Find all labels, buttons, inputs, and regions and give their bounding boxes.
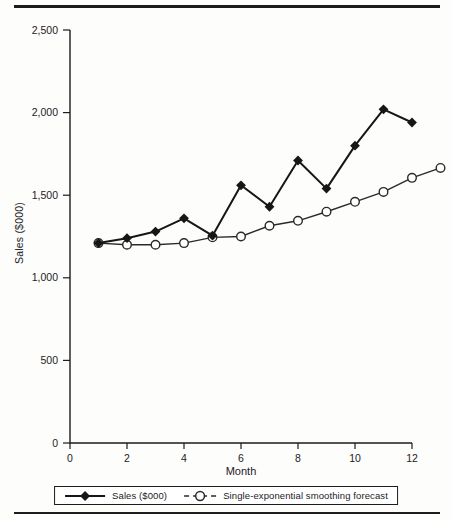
x-axis-title-text: Month: [226, 465, 257, 477]
legend-item-sales: Sales ($000): [64, 490, 167, 502]
y-axis-title: Sales ($000): [13, 202, 25, 264]
x-tick-label: 10: [349, 452, 361, 464]
plot-area: 05001,0001,5002,0002,500024681012Month: [0, 0, 452, 480]
x-tick-label: 6: [238, 452, 244, 464]
forecast-point-marker: [294, 217, 303, 226]
x-tick-label: 8: [295, 452, 301, 464]
sales-point-marker: [407, 118, 417, 128]
legend-marker-forecast-dash-circle-icon: [183, 490, 217, 502]
y-tick-label: 500: [40, 354, 58, 366]
bottom-rule: [14, 512, 440, 514]
forecast-point-marker: [265, 221, 274, 230]
legend-label-sales: Sales ($000): [112, 490, 167, 501]
forecast-point-marker: [322, 207, 331, 216]
y-tick-label: 1,500: [32, 189, 58, 201]
legend: Sales ($000) Single-exponential smoothin…: [54, 486, 398, 505]
sales-chart: 05001,0001,5002,0002,500024681012Month S…: [0, 0, 452, 520]
series-line-sales: [99, 109, 413, 243]
forecast-point-marker: [180, 239, 189, 248]
legend-label-forecast: Single-exponential smoothing forecast: [223, 490, 388, 501]
forecast-point-marker: [379, 188, 388, 197]
y-tick-label: 0: [52, 437, 58, 449]
y-tick-label: 1,000: [32, 271, 58, 283]
x-tick-label: 0: [67, 452, 73, 464]
forecast-point-marker: [436, 164, 445, 173]
legend-marker-sales-line-diamond-icon: [64, 490, 106, 502]
forecast-point-marker: [351, 198, 360, 207]
legend-item-forecast: Single-exponential smoothing forecast: [183, 490, 388, 502]
sales-point-marker: [151, 227, 161, 237]
x-tick-label: 12: [406, 452, 418, 464]
figure: 05001,0001,5002,0002,500024681012Month S…: [0, 0, 452, 520]
y-tick-label: 2,500: [32, 24, 58, 36]
forecast-point-marker: [408, 174, 417, 183]
forecast-point-marker: [151, 240, 160, 249]
sales-point-marker: [179, 213, 189, 223]
x-tick-label: 4: [181, 452, 187, 464]
forecast-point-marker: [237, 232, 246, 241]
x-tick-label: 2: [124, 452, 130, 464]
y-tick-label: 2,000: [32, 106, 58, 118]
